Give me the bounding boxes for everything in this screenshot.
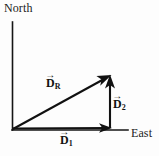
vector-arrow-accent-icon: →	[59, 127, 69, 137]
vector-label-d2-base: → D	[113, 98, 122, 110]
vector-label-dr: → D R	[46, 77, 60, 91]
vector-label-d1: → D 1	[60, 134, 73, 148]
vector-label-dr-base: → D	[46, 77, 55, 89]
east-axis-label: East	[131, 126, 152, 141]
vector-diagram-figure: North East → D R → D 2 → D 1	[0, 0, 159, 156]
vector-arrow-accent-icon: →	[112, 91, 122, 101]
vector-label-d2: → D 2	[113, 98, 126, 112]
vector-dr	[13, 75, 112, 129]
vector-label-d1-base: → D	[60, 134, 69, 146]
vector-label-d1-subscript: 1	[69, 139, 73, 148]
vector-arrow-accent-icon: →	[45, 70, 55, 80]
north-axis-label: North	[4, 1, 33, 16]
vector-label-dr-subscript: R	[55, 82, 61, 91]
vector-label-d2-subscript: 2	[122, 103, 126, 112]
